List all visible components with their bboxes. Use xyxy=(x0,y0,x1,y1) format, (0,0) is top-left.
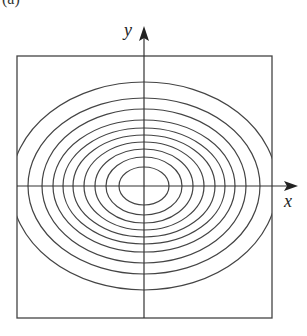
x-axis-label: x xyxy=(284,191,292,212)
contour-diagram xyxy=(0,0,307,336)
y-axis-label: y xyxy=(124,20,132,41)
